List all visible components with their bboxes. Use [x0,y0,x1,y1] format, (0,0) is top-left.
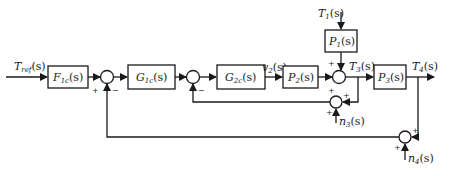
n4-summing-junction [399,131,411,143]
n3-label: n3(s) [339,115,365,129]
n4-sum-plus-right: + [412,126,419,135]
n3-sum-plus-bottom: + [326,108,333,117]
summing-junction-2 [187,71,200,84]
sum2-minus-sign: − [198,86,205,95]
t3-label: T3(s) [349,60,375,74]
p1-label: P1(s) [328,35,355,49]
summing-junction-3 [333,71,346,84]
sum3-plus-left: + [328,86,335,95]
sum1-minus-sign: − [112,86,119,95]
sum1-plus-sign: + [92,86,99,95]
n3-summing-junction [330,96,342,108]
n4-sum-plus-bottom: + [394,143,401,152]
t1-label: T1(s) [318,7,344,21]
n4-label: n4(s) [408,152,434,166]
t4-label: T4(s) [412,60,438,74]
outer-feedback-line [107,84,399,137]
block-diagram: Tref(s) F1c(s) + − G1c(s) − G2c(s) v2(s)… [0,0,449,176]
summing-junction-1 [101,71,114,84]
sum3-plus-top: + [328,59,335,68]
tref-label: Tref(s) [14,60,46,74]
p2-label: P2(s) [287,71,314,85]
p3-label: P3(s) [377,71,404,85]
n3-sum-plus-right: + [343,91,350,100]
